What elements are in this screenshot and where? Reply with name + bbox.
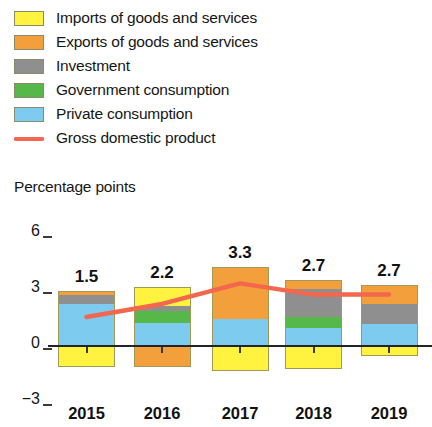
gdp-contributions-chart: Imports of goods and services Exports of… <box>0 0 432 427</box>
plot-area: −30361.520152.220163.320172.720182.72019 <box>0 0 432 427</box>
gdp-line-series <box>0 0 432 427</box>
gdp-line-path <box>87 283 390 317</box>
